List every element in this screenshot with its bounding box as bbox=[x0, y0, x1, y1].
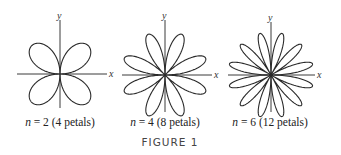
x-axis-label: x bbox=[316, 69, 322, 80]
caption-equation: = 2 bbox=[31, 116, 49, 128]
y-axis-label: y bbox=[161, 10, 167, 21]
figure-title: FIGURE 1 bbox=[142, 136, 199, 148]
caption-n6: n = 6 (12 petals) bbox=[232, 116, 307, 128]
caption-equation: = 6 bbox=[238, 116, 256, 128]
panel-n6: x y bbox=[228, 12, 322, 117]
x-axis-label: x bbox=[108, 68, 114, 79]
caption-equation: = 4 bbox=[136, 116, 154, 128]
y-axis-label: y bbox=[267, 12, 273, 23]
y-axis-label: y bbox=[56, 10, 62, 21]
caption-n2: n = 2 (4 petals) bbox=[25, 116, 95, 128]
caption-n4: n = 4 (8 petals) bbox=[130, 116, 200, 128]
x-axis-label: x bbox=[213, 69, 219, 80]
figure-canvas: x y x y x y bbox=[0, 0, 341, 155]
caption-petals: (8 petals) bbox=[157, 116, 200, 128]
caption-petals: (4 petals) bbox=[52, 116, 95, 128]
panel-n2: x y bbox=[17, 10, 114, 108]
caption-petals: (12 petals) bbox=[259, 116, 308, 128]
panel-n4: x y bbox=[122, 10, 219, 116]
